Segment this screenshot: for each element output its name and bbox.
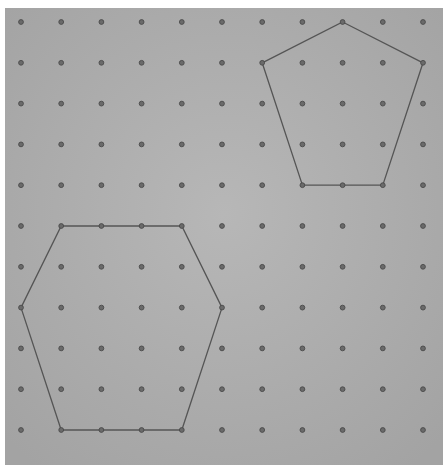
peg [220, 101, 225, 106]
peg [380, 305, 385, 310]
peg [380, 387, 385, 392]
peg [300, 142, 305, 147]
peg [380, 346, 385, 351]
peg [179, 183, 184, 188]
peg [421, 305, 426, 310]
peg [300, 20, 305, 25]
peg [421, 101, 426, 106]
peg [421, 142, 426, 147]
peg [340, 101, 345, 106]
peg [19, 428, 24, 433]
peg [139, 346, 144, 351]
peg [260, 346, 265, 351]
peg [421, 60, 426, 65]
peg [260, 224, 265, 229]
peg [19, 305, 24, 310]
peg [220, 60, 225, 65]
peg [421, 264, 426, 269]
peg [179, 264, 184, 269]
peg [380, 183, 385, 188]
peg [260, 142, 265, 147]
peg [99, 20, 104, 25]
peg [260, 20, 265, 25]
peg [59, 183, 64, 188]
peg [260, 428, 265, 433]
peg [179, 387, 184, 392]
peg [139, 142, 144, 147]
peg [179, 305, 184, 310]
peg [340, 142, 345, 147]
peg [59, 387, 64, 392]
peg [220, 142, 225, 147]
peg [99, 264, 104, 269]
peg [139, 224, 144, 229]
peg [421, 20, 426, 25]
peg [220, 305, 225, 310]
peg [59, 264, 64, 269]
peg [260, 183, 265, 188]
peg [99, 224, 104, 229]
peg [421, 428, 426, 433]
peg [139, 428, 144, 433]
peg [179, 20, 184, 25]
peg [340, 20, 345, 25]
peg [380, 60, 385, 65]
peg [220, 264, 225, 269]
peg [300, 101, 305, 106]
peg [421, 346, 426, 351]
peg [260, 305, 265, 310]
peg [380, 224, 385, 229]
peg [139, 60, 144, 65]
peg [300, 305, 305, 310]
peg [421, 387, 426, 392]
peg [220, 428, 225, 433]
peg [179, 428, 184, 433]
peg [59, 346, 64, 351]
peg [139, 20, 144, 25]
peg [260, 387, 265, 392]
peg [260, 101, 265, 106]
peg [380, 101, 385, 106]
peg [340, 305, 345, 310]
peg [340, 387, 345, 392]
peg [340, 183, 345, 188]
peg [380, 142, 385, 147]
peg [260, 60, 265, 65]
peg [19, 20, 24, 25]
peg [340, 224, 345, 229]
peg [19, 60, 24, 65]
peg [59, 60, 64, 65]
peg [19, 346, 24, 351]
board-background [5, 8, 443, 465]
peg [99, 346, 104, 351]
peg [380, 20, 385, 25]
peg [300, 224, 305, 229]
peg [19, 387, 24, 392]
peg [19, 264, 24, 269]
peg [421, 183, 426, 188]
peg [139, 387, 144, 392]
peg [220, 224, 225, 229]
peg [99, 101, 104, 106]
peg [59, 224, 64, 229]
peg [300, 346, 305, 351]
peg [139, 264, 144, 269]
peg [380, 264, 385, 269]
geoboard [0, 0, 446, 472]
peg [99, 60, 104, 65]
peg [260, 264, 265, 269]
peg [300, 183, 305, 188]
peg [19, 224, 24, 229]
peg [179, 60, 184, 65]
peg [300, 387, 305, 392]
peg [99, 428, 104, 433]
peg [300, 264, 305, 269]
peg [179, 224, 184, 229]
peg [340, 346, 345, 351]
peg [340, 428, 345, 433]
peg [179, 346, 184, 351]
peg [179, 142, 184, 147]
peg [340, 60, 345, 65]
peg [59, 428, 64, 433]
peg [19, 101, 24, 106]
